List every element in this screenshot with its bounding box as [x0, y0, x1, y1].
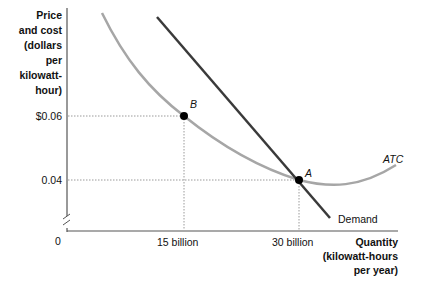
- axis-break-mark-bottom: [63, 220, 70, 225]
- atc-curve: [102, 13, 396, 185]
- point-b: [180, 112, 188, 120]
- x-title-line: (kilowatt-hours: [318, 249, 398, 263]
- y-title-line: per: [0, 53, 62, 68]
- y-title-line: (dollars: [0, 38, 62, 53]
- y-axis-title: Price and cost (dollars per kilowatt- ho…: [0, 8, 62, 98]
- y-title-line: Price: [0, 8, 62, 23]
- y-tick-004: 0.04: [0, 173, 62, 187]
- demand-label: Demand: [338, 212, 378, 226]
- x-title-line: Quantity: [318, 235, 398, 249]
- origin-label: 0: [55, 234, 61, 248]
- x-tick-30-billion: 30 billion: [272, 235, 313, 249]
- y-title-line: kilowatt-: [0, 68, 62, 83]
- x-title-line: per year): [318, 263, 398, 277]
- point-a-label: A: [305, 166, 312, 180]
- y-title-line: hour): [0, 83, 62, 98]
- atc-label: ATC: [383, 152, 403, 166]
- x-axis-title: Quantity (kilowatt-hours per year): [318, 235, 398, 277]
- x-tick-15-billion: 15 billion: [157, 235, 198, 249]
- point-a: [295, 176, 303, 184]
- y-tick-006: $0.06: [0, 109, 62, 123]
- point-b-label: B: [190, 97, 197, 111]
- y-title-line: and cost: [0, 23, 62, 38]
